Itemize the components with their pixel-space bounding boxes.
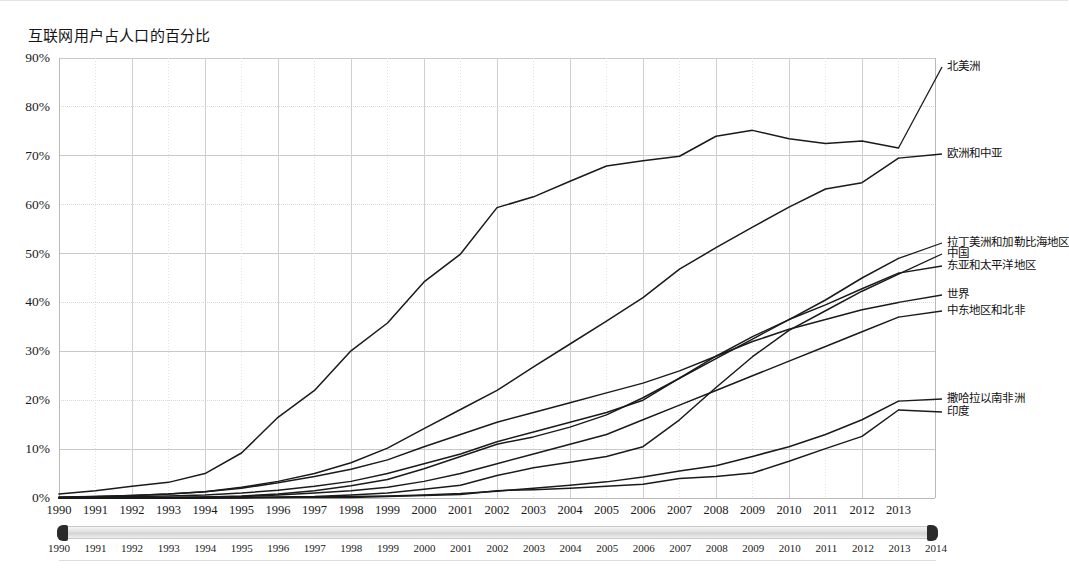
- series-lines: [59, 130, 899, 498]
- slider-tick-label: 2014: [914, 542, 958, 554]
- gridlines: [59, 58, 935, 498]
- year-range-slider[interactable]: 1990199119921993199419951996199719981999…: [59, 526, 936, 541]
- series-label-4: 东亚和太平洋地区: [947, 259, 1036, 272]
- series-label-7: 撒哈拉以南非洲: [947, 392, 1025, 405]
- slider-track[interactable]: [59, 526, 936, 539]
- series-line: [59, 130, 899, 494]
- x-tick-label: 2013: [876, 503, 922, 518]
- series-label-6: 中东地区和北非: [947, 304, 1025, 317]
- series-line: [59, 410, 899, 498]
- y-tick-label: 10%: [4, 441, 50, 457]
- series-label-8: 印度: [947, 405, 969, 418]
- range-end-handle[interactable]: [927, 525, 938, 541]
- y-tick-label: 60%: [4, 197, 50, 213]
- y-tick-label: 40%: [4, 294, 50, 310]
- y-tick-label: 70%: [4, 148, 50, 164]
- y-tick-label: 80%: [4, 99, 50, 115]
- y-tick-label: 30%: [4, 343, 50, 359]
- series-label-0: 北美洲: [947, 60, 980, 73]
- y-tick-label: 90%: [4, 50, 50, 66]
- series-line: [59, 273, 899, 497]
- series-line: [59, 317, 899, 498]
- y-tick-label: 50%: [4, 246, 50, 262]
- slider-underline: [59, 560, 936, 561]
- series-line: [59, 274, 899, 498]
- series-label-1: 欧洲和中亚: [947, 147, 1003, 160]
- series-line: [59, 258, 899, 498]
- y-tick-label: 20%: [4, 392, 50, 408]
- series-label-5: 世界: [947, 288, 969, 301]
- range-start-handle[interactable]: [57, 525, 68, 541]
